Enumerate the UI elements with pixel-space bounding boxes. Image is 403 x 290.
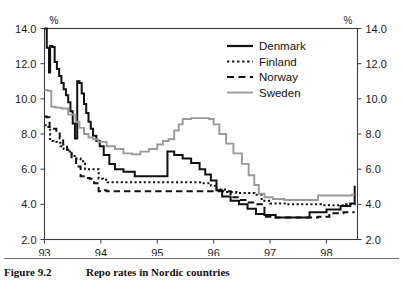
y-axis-tick-label-left: 2.0 — [21, 234, 36, 246]
figure-container: 2.04.06.08.010.012.014.0 2.04.06.08.010.… — [0, 0, 403, 290]
series-line-denmark — [45, 29, 355, 218]
x-axis-ticks: 939495969798 — [38, 240, 332, 257]
right-axis-unit-label: % — [344, 15, 353, 26]
x-axis-tick-label: 94 — [95, 247, 107, 257]
y-axis-tick-label-right: 8.0 — [366, 128, 381, 140]
y-axis-tick-label-left: 12.0 — [15, 58, 36, 70]
caption-divider — [4, 258, 399, 259]
chart-legend: DenmarkFinlandNorwaySweden — [227, 40, 306, 98]
left-axis-unit-label: % — [50, 15, 59, 26]
y-axis-tick-label-left: 14.0 — [15, 23, 36, 35]
x-axis-tick-label: 97 — [264, 247, 276, 257]
x-axis-tick-label: 98 — [320, 247, 332, 257]
x-axis-tick-label: 96 — [208, 247, 220, 257]
y-axis-tick-label-left: 4.0 — [21, 198, 36, 210]
y-axis-tick-label-right: 10.0 — [366, 93, 387, 105]
y-axis-right-ticks: 2.04.06.08.010.012.014.0 — [358, 23, 387, 246]
data-series-group — [45, 29, 355, 218]
legend-label-sweden: Sweden — [259, 87, 301, 99]
y-axis-tick-label-right: 4.0 — [366, 198, 381, 210]
caption-figure-number: Figure 9.2 — [4, 266, 86, 278]
legend-label-norway: Norway — [259, 71, 298, 83]
y-axis-tick-label-right: 6.0 — [366, 163, 381, 175]
caption-title-text: Repo rates in Nordic countries — [86, 266, 230, 278]
x-axis-tick-label: 93 — [38, 247, 50, 257]
y-axis-tick-label-right: 2.0 — [366, 234, 381, 246]
chart-figure: 2.04.06.08.010.012.014.0 2.04.06.08.010.… — [0, 0, 403, 256]
series-line-sweden — [45, 90, 355, 200]
y-axis-tick-label-left: 8.0 — [21, 128, 36, 140]
plot-frame — [45, 29, 358, 240]
y-axis-tick-label-right: 14.0 — [366, 23, 387, 35]
y-axis-left-ticks: 2.04.06.08.010.012.014.0 — [15, 23, 44, 246]
caption-row: Figure 9.2 Repo rates in Nordic countrie… — [4, 266, 399, 278]
legend-label-finland: Finland — [259, 56, 297, 68]
legend-label-denmark: Denmark — [259, 40, 306, 52]
repo-rates-line-chart: 2.04.06.08.010.012.014.0 2.04.06.08.010.… — [0, 0, 403, 256]
y-axis-tick-label-left: 10.0 — [15, 93, 36, 105]
x-axis-tick-label: 95 — [151, 247, 163, 257]
y-axis-tick-label-right: 12.0 — [366, 58, 387, 70]
y-axis-tick-label-left: 6.0 — [21, 163, 36, 175]
plot-area-wrapper: 2.04.06.08.010.012.014.0 2.04.06.08.010.… — [0, 0, 403, 256]
figure-caption: Figure 9.2 Repo rates in Nordic countrie… — [0, 258, 403, 290]
